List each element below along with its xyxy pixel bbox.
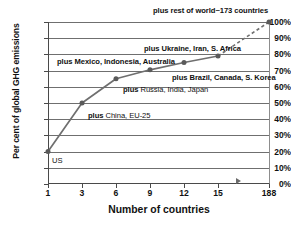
gridline-100 (49, 22, 269, 23)
gridline-30 (49, 135, 269, 136)
annotation-ukraine: plus Ukraine, Iran, S. Africa (144, 44, 241, 53)
x-tick-label-12: 12 (169, 188, 199, 198)
x-tick-label-188: 188 (254, 188, 284, 198)
gridline-80 (49, 54, 269, 55)
annotation-mexico: plus Mexico, Indonesia, Australia (57, 57, 175, 66)
ghg-emissions-line-chart: Per cent of global GHG emissions 100% 90… (0, 0, 291, 240)
gridline-10 (49, 168, 269, 169)
annotation-brazil: plus Brazil, Canada, S. Korea (172, 73, 276, 82)
y-axis-title: Per cent of global GHG emissions (11, 6, 21, 176)
x-tick-label-9: 9 (135, 188, 165, 198)
gridline-50 (49, 103, 269, 104)
gridline-20 (49, 152, 269, 153)
gridline-90 (49, 38, 269, 39)
axis-break-marker (236, 178, 241, 184)
annotation-china: plus China, EU-25 (88, 111, 150, 120)
annotation-rest: plus rest of world~173 countries (153, 6, 268, 15)
annotation-us: US (52, 156, 62, 165)
x-tick-label-6: 6 (101, 188, 131, 198)
x-axis-title: Number of countries (48, 204, 270, 215)
annotation-russia: plus Russia, India, Japan (123, 85, 208, 94)
gridline-40 (49, 119, 269, 120)
x-tick-label-15: 15 (203, 188, 233, 198)
gridline-70 (49, 71, 269, 72)
x-tick-label-3: 3 (67, 188, 97, 198)
x-tick-label-1: 1 (33, 188, 63, 198)
